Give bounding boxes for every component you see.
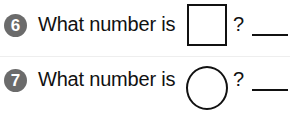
question-6: 6 What number is ? [0,0,290,56]
question-number-badge: 7 [4,69,27,92]
circle-shape [186,66,228,110]
question-mark: ? [233,13,244,36]
square-shape [187,4,227,46]
question-mark: ? [233,68,244,91]
answer-blank[interactable] [252,34,288,36]
question-number-badge: 6 [4,14,27,37]
answer-blank[interactable] [252,89,288,91]
question-prompt: What number is [38,13,175,36]
question-7: 7 What number is ? [0,57,290,113]
question-prompt: What number is [38,68,175,91]
